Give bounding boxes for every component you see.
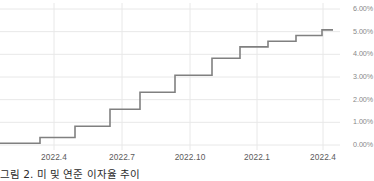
y-tick-label-3: 3.00%: [353, 73, 373, 81]
y-axis-tick-labels: 0.00%1.00%2.00%3.00%4.00%5.00%6.00%: [341, 0, 374, 155]
x-tick-label-0: 2022.4: [41, 152, 67, 163]
y-tick-label-0: 0.00%: [353, 141, 373, 149]
chart-plot-area: [0, 0, 340, 150]
figure-caption-text: 그림 2. 미 및 연준 이자율 추이: [0, 169, 140, 181]
y-tick-label-6: 6.00%: [353, 5, 373, 13]
figure-caption: 그림 2. 미 및 연준 이자율 추이: [0, 169, 374, 181]
x-tick-label-3: 2022.1: [244, 152, 270, 163]
y-tick-label-5: 5.00%: [353, 28, 373, 36]
figure-container: 0.00%1.00%2.00%3.00%4.00%5.00%6.00% 2022…: [0, 0, 374, 181]
x-tick-label-1: 2022.7: [109, 152, 135, 163]
rate-step-line: [0, 30, 333, 143]
step-line-chart: [0, 0, 340, 150]
y-tick-label-1: 1.00%: [353, 118, 373, 126]
x-axis-tick-labels: 2022.42022.72022.102022.12022.4: [0, 150, 340, 166]
y-tick-label-4: 4.00%: [353, 50, 373, 58]
x-tick-label-2: 2022.10: [175, 152, 206, 163]
x-tick-label-4: 2022.4: [310, 152, 336, 163]
y-tick-label-2: 2.00%: [353, 96, 373, 104]
horizontal-gridlines: [0, 9, 340, 145]
